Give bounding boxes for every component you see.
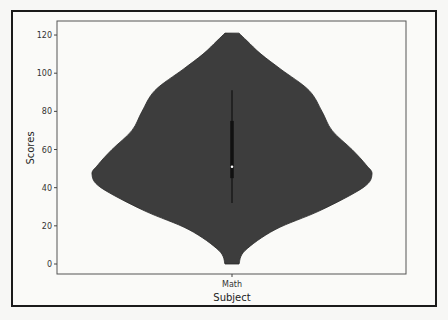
y-axis: 020406080100120 — [37, 31, 57, 269]
median-dot — [231, 165, 234, 168]
violin-chart: 020406080100120 Math Subject Scores — [0, 0, 448, 320]
x-tick-label: Math — [222, 280, 242, 289]
y-tick-label: 20 — [42, 222, 52, 231]
y-axis-label: Scores — [25, 131, 36, 164]
y-tick-label: 40 — [42, 184, 52, 193]
y-tick-label: 0 — [47, 260, 52, 269]
y-tick-label: 100 — [37, 69, 52, 78]
y-tick-label: 120 — [37, 31, 52, 40]
x-axis-label: Subject — [213, 292, 250, 303]
y-tick-label: 80 — [42, 107, 52, 116]
y-tick-label: 60 — [42, 146, 52, 155]
